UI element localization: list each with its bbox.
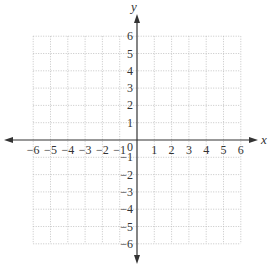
y-tick-label: −1 [120,150,133,164]
y-axis-label: y [129,0,137,14]
y-tick-label: 3 [127,81,133,95]
x-tick-label: 6 [238,143,244,157]
y-tick-label: −2 [120,168,133,182]
y-axis-top-arrow-icon [134,14,140,23]
x-tick-label: −4 [61,143,74,157]
y-tick-label: 4 [127,64,133,78]
x-tick-label: 5 [221,143,227,157]
x-axis-left-arrow-icon [4,137,13,143]
y-tick-label: −4 [120,202,133,216]
y-tick-label: −5 [120,220,133,234]
y-tick-label: −6 [120,237,133,251]
x-tick-label: −3 [79,143,92,157]
coordinate-plane: x y 0 −6−5−4−3−2−1123456 654321−1−2−3−4−… [0,0,276,272]
x-axis-label: x [260,132,267,147]
x-axis-right-arrow-icon [249,137,258,143]
x-tick-label: 4 [203,143,209,157]
x-tick-label: −2 [96,143,109,157]
y-tick-label: −3 [120,185,133,199]
x-tick-label: 3 [186,143,192,157]
y-tick-label: 2 [127,98,133,112]
y-axis-bottom-arrow-icon [134,255,140,264]
y-tick-label: 1 [127,116,133,130]
x-tick-label: −6 [27,143,40,157]
x-tick-label: 1 [151,143,157,157]
x-tick-label: −5 [44,143,57,157]
x-tick-label: 2 [169,143,175,157]
x-tick-labels: −6−5−4−3−2−1123456 [27,143,244,157]
y-tick-label: 6 [127,29,133,43]
y-tick-label: 5 [127,47,133,61]
